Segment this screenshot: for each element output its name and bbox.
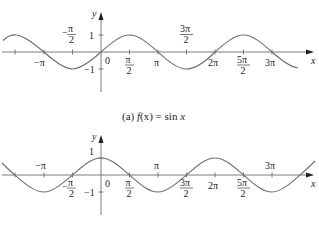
x-axis-arrow-icon <box>306 50 314 55</box>
x-tick-label-pi-b: π <box>154 160 159 171</box>
x-tick-label-three-pi-b: 3π <box>265 160 275 171</box>
x-tick-label-neg-half-pi-num-a: π <box>68 23 73 34</box>
x-axis-label-b: x <box>310 178 316 189</box>
x-tick-label-half-pi-den-b: 2 <box>127 188 132 199</box>
x-tick-label-three-half-pi-den-b: 2 <box>184 188 189 199</box>
caption-a: (a) f(x) = sin x <box>122 110 185 123</box>
x-tick-label-two-pi-b: 2π <box>208 180 218 191</box>
y-axis-arrow-icon <box>99 135 104 143</box>
x-axis-label-a: x <box>310 55 316 66</box>
x-tick-label-five-half-pi-num-b: 5π <box>237 177 247 188</box>
y-axis-arrow-icon <box>99 12 104 20</box>
x-tick-label-five-half-pi-den-a: 2 <box>241 65 246 76</box>
x-tick-label-half-pi-den-a: 2 <box>127 65 132 76</box>
x-tick-label-neg-pi-b: −π <box>35 160 46 171</box>
x-tick-label-three-half-pi-den-a: 2 <box>184 34 189 45</box>
origin-label-a: 0 <box>105 55 110 66</box>
x-tick-label-neg-half-pi-den-b: 2 <box>69 188 74 199</box>
x-tick-label-three-half-pi-num-a: 3π <box>180 23 190 34</box>
x-tick-label-five-half-pi-den-b: 2 <box>241 188 246 199</box>
y-axis-label-b: y <box>91 131 97 142</box>
x-tick-label-neg-half-pi-den-a: 2 <box>69 34 74 45</box>
y-tick-label-neg1-b: −1 <box>84 187 95 198</box>
x-tick-label-two-pi-a: 2π <box>208 57 218 68</box>
y-axis-label-a: y <box>91 8 97 19</box>
origin-label-b: 0 <box>105 178 110 189</box>
figure: y x 1 −1 0 −π − π 2 π 2 π 3π 2 2π 5π 2 3… <box>0 0 319 230</box>
x-axis-arrow-icon <box>306 173 314 178</box>
x-tick-label-three-half-pi-num-b: 3π <box>180 177 190 188</box>
x-tick-label-half-pi-num-b: π <box>126 177 131 188</box>
x-tick-label-three-pi-a: 3π <box>265 57 275 68</box>
graph-b: y x 1 −1 0 −π − π 2 π 2 π 3π 2 2π 5π 2 3… <box>2 131 316 215</box>
x-tick-label-neg-half-pi-num-b: π <box>68 177 73 188</box>
y-tick-label-1-b: 1 <box>89 146 94 157</box>
x-tick-label-pi-a: π <box>154 57 159 68</box>
graph-a: y x 1 −1 0 −π − π 2 π 2 π 3π 2 2π 5π 2 3… <box>2 8 316 123</box>
x-tick-label-neg-pi-a: −π <box>34 57 45 68</box>
x-tick-label-five-half-pi-num-a: 5π <box>237 54 247 65</box>
y-tick-label-neg1-a: −1 <box>84 64 95 75</box>
y-tick-label-1-a: 1 <box>89 30 94 41</box>
x-tick-label-half-pi-num-a: π <box>126 54 131 65</box>
